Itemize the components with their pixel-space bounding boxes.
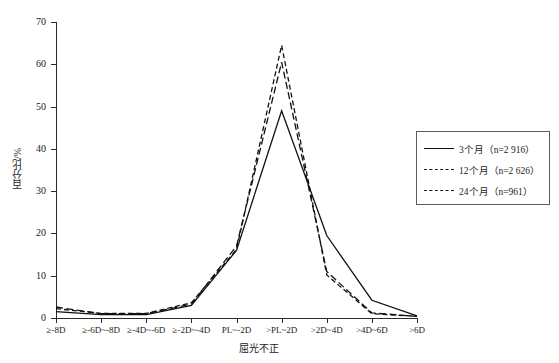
legend-item-2: 12个月（n=2 626） xyxy=(424,159,545,180)
legend-item-label: 3个月（n=2 916） xyxy=(459,142,535,156)
chart-figure: 010203040506070 ≥-8D≥-6D~-8D≥-4D~-6D≥-2D… xyxy=(0,0,559,363)
series-line-3 xyxy=(56,45,417,316)
series-line-2 xyxy=(56,62,417,316)
series-line-1 xyxy=(56,111,417,316)
legend-item-3: 24个月（n=961） xyxy=(424,180,545,201)
legend-line-swatch-icon xyxy=(424,144,454,154)
legend-line-swatch-icon xyxy=(424,186,454,196)
legend-line-swatch-icon xyxy=(424,165,454,175)
chart-legend: 3个月（n=2 916）12个月（n=2 626）24个月（n=961） xyxy=(416,131,550,205)
legend-item-label: 24个月（n=961） xyxy=(459,184,533,198)
legend-item-label: 12个月（n=2 626） xyxy=(459,163,540,177)
legend-item-1: 3个月（n=2 916） xyxy=(424,138,545,159)
